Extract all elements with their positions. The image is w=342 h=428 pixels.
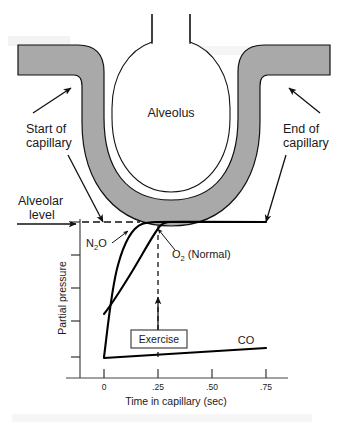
o2-leader-arrow xyxy=(158,229,175,250)
end-capillary-callout: End of capillary xyxy=(266,88,330,222)
x-tick-label-0: 0 xyxy=(102,382,107,392)
series-curve-o2-normal xyxy=(104,222,170,314)
y-axis-title: Partial pressure xyxy=(56,261,68,335)
series-curve-co xyxy=(104,348,266,358)
x-tick-label-50: .50 xyxy=(206,382,218,392)
n2o-label: N2O xyxy=(86,237,107,252)
o2-normal-callout: O2 (Normal) xyxy=(158,229,231,263)
start-capillary-label-line2: capillary xyxy=(26,136,73,150)
start-capillary-arrow-up xyxy=(33,88,71,113)
end-capillary-label-line2: capillary xyxy=(283,136,330,150)
alveolus-sac xyxy=(112,14,230,192)
start-capillary-label-line1: Start of xyxy=(26,122,67,136)
end-capillary-arrow-down xyxy=(266,155,286,222)
end-capillary-arrow-up xyxy=(289,88,320,113)
physiology-figure: Alveolus Start of capillary End of capil… xyxy=(0,0,342,428)
x-tick-label-25: .25 xyxy=(152,382,164,392)
x-tick-label-75: .75 xyxy=(260,382,272,392)
o2-label: O2 (Normal) xyxy=(172,248,231,263)
alveolar-level-label-line1: Alveolar xyxy=(18,194,63,208)
exercise-marker-group: Exercise xyxy=(131,226,187,360)
n2o-callout: N2O xyxy=(86,231,128,252)
alveolus-label: Alveolus xyxy=(147,106,194,120)
end-capillary-label-line1: End of xyxy=(283,122,320,136)
x-axis-ticks xyxy=(104,369,266,378)
co-label: CO xyxy=(238,334,255,346)
alveolar-level-label-line2: level xyxy=(29,208,55,222)
y-axis-ticks xyxy=(71,222,80,357)
x-axis-title: Time in capillary (sec) xyxy=(125,395,227,407)
alveolus-group xyxy=(112,14,230,192)
exercise-label: Exercise xyxy=(139,333,179,345)
